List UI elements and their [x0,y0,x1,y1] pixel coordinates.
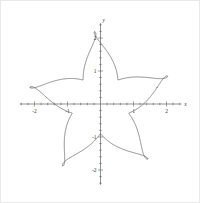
plot-frame: -2-112-2-112 x y [0,0,200,203]
x-axis-label: x [183,101,187,107]
y-tick-label: 1 [94,68,97,74]
curve-group [30,32,168,166]
x-tick-label: 2 [165,108,168,114]
x-tick-label: -2 [32,108,37,114]
plot-canvas: -2-112-2-112 x y [1,1,200,203]
axes-group [20,23,182,185]
y-axis-label: y [102,17,106,23]
pinwheel-curve [30,32,168,166]
y-tick-label: -2 [92,167,97,173]
